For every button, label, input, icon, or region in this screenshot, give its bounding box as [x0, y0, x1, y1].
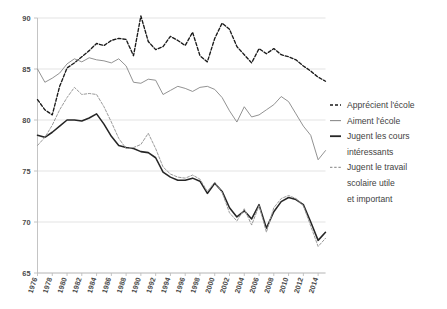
legend-item-label: intéressants	[347, 147, 393, 157]
y-tick-label: 80	[22, 116, 30, 125]
x-tick-label: 2014	[307, 276, 321, 294]
x-tick-label: 2010	[277, 276, 291, 294]
x-tick-label: 2000	[203, 276, 217, 294]
series-line-3	[38, 87, 326, 246]
series-line-2	[38, 114, 326, 240]
x-tick-label: 1988	[115, 276, 129, 294]
axes-group	[34, 18, 326, 276]
chart-container: 657075808590 197619781980198219841986198…	[0, 0, 447, 309]
x-axis-tick-labels: 1976197819801982198419861988199019921994…	[26, 276, 320, 294]
x-tick-label: 1980	[55, 276, 69, 294]
y-tick-label: 65	[22, 269, 30, 278]
x-tick-label: 2012	[292, 276, 306, 294]
x-tick-label: 1998	[188, 276, 202, 294]
x-tick-label: 2008	[262, 276, 276, 294]
gridlines-group	[38, 18, 326, 273]
y-axis-tick-labels: 657075808590	[22, 14, 30, 278]
x-tick-label: 1996	[174, 276, 188, 294]
legend-item-label: Jugent les cours	[347, 131, 410, 141]
line-chart: 657075808590 197619781980198219841986198…	[0, 0, 447, 309]
x-tick-label: 1994	[159, 276, 173, 294]
x-tick-label: 1982	[70, 276, 84, 294]
y-tick-label: 90	[22, 14, 30, 23]
x-tick-label: 1978	[41, 276, 55, 294]
legend-item-label: Aiment l'école	[347, 116, 400, 126]
chart-legend: Apprécient l'écoleAiment l'écoleJugent l…	[330, 100, 415, 204]
x-tick-label: 1986	[100, 276, 114, 294]
x-tick-label: 1990	[129, 276, 143, 294]
x-tick-label: 1992	[144, 276, 158, 294]
series-line-1	[38, 58, 326, 160]
legend-item-label: Jugent le travail	[347, 162, 407, 172]
legend-item-label: et important	[347, 194, 393, 204]
legend-item-label: scolaire utile	[347, 178, 395, 188]
y-tick-label: 75	[22, 167, 30, 176]
series-line-0	[38, 16, 326, 115]
series-group	[38, 16, 326, 247]
x-tick-label: 1976	[26, 276, 40, 294]
x-tick-label: 2002	[218, 276, 232, 294]
y-tick-label: 85	[22, 65, 30, 74]
y-tick-label: 70	[22, 218, 30, 227]
x-tick-label: 2004	[233, 276, 247, 294]
legend-item-label: Apprécient l'école	[347, 100, 415, 110]
x-tick-label: 1984	[85, 276, 99, 294]
x-tick-label: 2006	[247, 276, 261, 294]
